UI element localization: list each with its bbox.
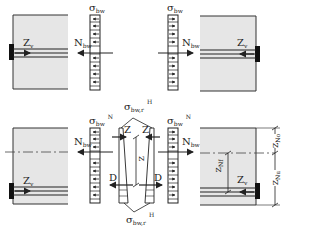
bottom-left-block: [5, 128, 68, 204]
label-sigma-bw-top-left: σbw: [89, 2, 106, 14]
label-nbw-bottom-right: Nbw: [182, 136, 201, 148]
diagram-canvas: Zv σbw Nbw: [0, 0, 336, 227]
label-sigma-bwr-h-top: σbw,rH: [124, 98, 152, 113]
label-d-right: D: [154, 172, 162, 183]
label-sigma-bwr-h-bottom: σbw,rH: [126, 211, 154, 226]
bottom-right-stress-strip: [168, 128, 178, 203]
label-nbw-top-right: Nbw: [182, 37, 201, 49]
bottom-center-bending-diagram: [110, 118, 162, 212]
label-sigma-bw-n-bottom-right: σbwN: [167, 113, 191, 127]
label-z-left: Z: [124, 124, 131, 135]
label-lever-arm-z: z: [137, 156, 148, 161]
label-sigma-bw-n-bottom-left: σbwN: [89, 113, 113, 127]
top-right-block: [200, 16, 260, 91]
label-sigma-bw-top-right: σbw: [167, 2, 184, 14]
bottom-left-stress-strip: [90, 128, 100, 203]
top-left-block: [9, 15, 68, 89]
bottom-right-block: [200, 128, 275, 205]
label-z-right: Z: [142, 124, 149, 135]
label-d-left: D: [109, 172, 117, 183]
anchor-plate-icon: [255, 183, 260, 199]
